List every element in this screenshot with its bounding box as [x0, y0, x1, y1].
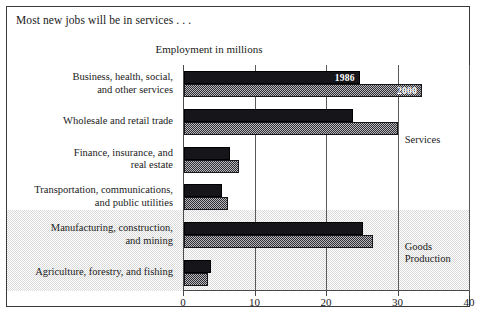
- chart-title: Most new jobs will be in services . . .: [16, 14, 191, 26]
- category-axis-labels: Business, health, social, and other serv…: [7, 65, 177, 291]
- category-label-1: Wholesale and retail trade: [5, 115, 173, 128]
- group-annotation-1: Goods Production: [405, 241, 451, 266]
- gridline-40: [469, 65, 470, 291]
- tick-label-10: 10: [235, 296, 275, 308]
- tick-label-40: 40: [449, 296, 477, 308]
- category-label-2: Finance, insurance, and real estate: [5, 147, 173, 172]
- category-label-3: Transportation, communications, and publ…: [5, 184, 173, 209]
- tick-label-20: 20: [306, 296, 346, 308]
- category-label-4: Manufacturing, construction, and mining: [5, 222, 173, 247]
- category-label-5: Agriculture, forestry, and fishing: [5, 266, 173, 279]
- chart-figure: Most new jobs will be in services . . . …: [6, 6, 470, 307]
- category-label-0: Business, health, social, and other serv…: [5, 71, 173, 96]
- x-axis-title: Employment in millions: [7, 43, 411, 55]
- tick-label-30: 30: [378, 296, 418, 308]
- tick-label-0: 0: [163, 296, 203, 308]
- group-annotation-0: Services: [405, 134, 441, 147]
